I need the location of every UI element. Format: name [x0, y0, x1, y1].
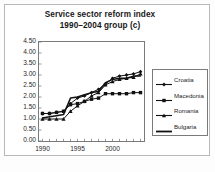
legend-item-bulgaria[interactable]: Bulgaria: [155, 122, 207, 131]
chart-title: Service sector reform index 1990–2004 gr…: [22, 9, 178, 31]
x-axis-tick-label: 1990: [31, 145, 55, 152]
chart-title-line-1: Service sector reform index: [22, 9, 178, 20]
x-axis: 199019952000: [30, 145, 160, 157]
square-marker-icon: [155, 91, 173, 100]
legend-item-romania[interactable]: Romania: [155, 106, 207, 115]
x-axis-tick-label: 2000: [101, 145, 125, 152]
figure-caption: [6, 164, 209, 172]
legend-item-label: Bulgaria: [174, 123, 196, 130]
plot-series-layer: [39, 42, 144, 141]
chart-legend: CroatiaMacedoniaRomaniaBulgaria: [152, 69, 208, 136]
legend-item-label: Croatia: [174, 76, 194, 83]
y-axis-tick-label: 2.00: [12, 93, 36, 100]
y-axis-tick-label: 0.00: [12, 137, 36, 144]
x-axis-tick-label: 1995: [66, 145, 90, 152]
legend-item-label: Romania: [174, 107, 198, 114]
legend-item-label: Macedonia: [174, 92, 204, 99]
y-axis: 0.000.501.001.502.002.503.003.504.004.50: [12, 36, 36, 148]
plot-area: [38, 41, 145, 142]
y-axis-tick-label: 1.50: [12, 104, 36, 111]
diamond-marker-icon: [155, 75, 173, 84]
legend-item-croatia[interactable]: Croatia: [155, 75, 207, 84]
y-axis-tick-label: 4.00: [12, 49, 36, 56]
chart-title-line-2: 1990–2004 group (c): [22, 20, 178, 31]
y-axis-tick-label: 4.50: [12, 38, 36, 45]
chart-figure: Service sector reform index 1990–2004 gr…: [0, 0, 215, 172]
legend-item-macedonia[interactable]: Macedonia: [155, 91, 207, 100]
y-axis-tick-label: 3.00: [12, 71, 36, 78]
line-marker-icon: [155, 122, 173, 131]
y-axis-tick-label: 2.50: [12, 82, 36, 89]
y-axis-tick-label: 1.00: [12, 115, 36, 122]
y-axis-tick-label: 3.50: [12, 60, 36, 67]
y-axis-tick-label: 0.50: [12, 126, 36, 133]
triangle-marker-icon: [155, 106, 173, 115]
